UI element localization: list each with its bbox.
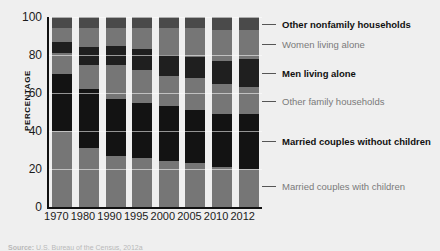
bar-1980[interactable] — [79, 17, 99, 207]
bar-1970[interactable] — [52, 17, 72, 207]
legend-leader-line — [262, 186, 276, 187]
gridline — [49, 169, 262, 170]
x-tick-label: 2012 — [227, 210, 259, 222]
gridline — [49, 93, 262, 94]
bar-segment — [79, 28, 99, 47]
x-axis-ticks: 19701980199019952000200520102012 — [49, 210, 262, 230]
bar-segment — [212, 84, 232, 114]
bar-segment — [159, 28, 179, 55]
legend-item[interactable]: Other family households — [282, 95, 438, 106]
bar-segment — [79, 17, 99, 28]
bar-segment — [79, 65, 99, 90]
bar-segment — [239, 17, 259, 30]
legend-item[interactable]: Men living alone — [282, 68, 438, 79]
bar-segment — [106, 99, 126, 156]
bar-segment — [239, 87, 259, 114]
legend-item[interactable]: Married couples with children — [282, 181, 438, 192]
legend-leader-line — [262, 44, 276, 45]
legend-leader-line — [262, 141, 276, 142]
bar-2012[interactable] — [239, 17, 259, 207]
bar-segment — [132, 158, 152, 207]
y-tick-label: 100 — [8, 10, 42, 24]
y-axis-ticks: 020406080100 — [6, 0, 42, 250]
source-label: Source: — [8, 244, 34, 251]
bar-segment — [52, 17, 72, 28]
bar-segment — [159, 55, 179, 76]
bar-segment — [185, 110, 205, 163]
legend-item[interactable]: Married couples without children — [282, 136, 438, 147]
y-tick-label: 40 — [8, 124, 42, 138]
bar-1995[interactable] — [132, 17, 152, 207]
legend-leader-line — [262, 24, 276, 25]
bar-segment — [52, 42, 72, 53]
bar-segment — [132, 17, 152, 28]
legend-item[interactable]: Women living alone — [282, 38, 438, 49]
bar-segment — [106, 17, 126, 28]
bar-segment — [185, 57, 205, 78]
bar-segment — [132, 49, 152, 70]
source-text: U.S. Bureau of the Census, 2012a — [36, 244, 143, 251]
bar-segment — [212, 167, 232, 207]
chart-legend: Other nonfamily householdsWomen living a… — [262, 0, 440, 250]
bar-segment — [239, 59, 259, 88]
y-tick-label: 60 — [8, 86, 42, 100]
bar-segment — [212, 61, 232, 84]
bar-segment — [52, 53, 72, 74]
x-axis-line — [47, 207, 262, 209]
bar-segment — [212, 17, 232, 30]
gridline — [49, 17, 262, 18]
bar-segment — [239, 169, 259, 207]
bar-segment — [185, 28, 205, 57]
bar-segment — [185, 17, 205, 28]
bar-segment — [212, 30, 232, 60]
bar-1990[interactable] — [106, 17, 126, 207]
bar-segment — [212, 114, 232, 167]
plot-area — [49, 17, 262, 207]
bar-segment — [159, 76, 179, 106]
source-note: Source: U.S. Bureau of the Census, 2012a — [8, 244, 143, 251]
legend-leader-line — [262, 101, 276, 102]
bar-segment — [106, 156, 126, 207]
bar-2010[interactable] — [212, 17, 232, 207]
bar-segment — [239, 114, 259, 169]
bar-2005[interactable] — [185, 17, 205, 207]
bar-segment — [79, 89, 99, 148]
bar-segment — [52, 28, 72, 41]
y-tick-label: 20 — [8, 162, 42, 176]
bar-segment — [52, 74, 72, 131]
bar-segment — [159, 106, 179, 161]
y-tick-label: 0 — [8, 200, 42, 214]
legend-leader-line — [262, 73, 276, 74]
bar-2000[interactable] — [159, 17, 179, 207]
gridline — [49, 55, 262, 56]
gridline — [49, 131, 262, 132]
bar-segment — [132, 28, 152, 49]
bar-segment — [132, 70, 152, 102]
bar-segment — [106, 28, 126, 45]
bar-segment — [79, 148, 99, 207]
bar-segment — [159, 17, 179, 28]
legend-item[interactable]: Other nonfamily households — [282, 18, 438, 29]
y-tick-label: 80 — [8, 48, 42, 62]
